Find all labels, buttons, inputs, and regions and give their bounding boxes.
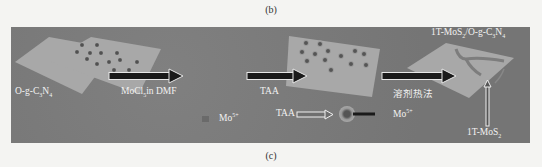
- caption-b: (b): [0, 4, 542, 15]
- legend-complex-mo: Mo5+: [393, 108, 413, 119]
- caption-c: (c): [0, 150, 542, 161]
- mo-ion-swatch: [202, 116, 209, 122]
- legend-mo-ion: Mo5+: [219, 112, 239, 123]
- synthesis-diagram: O-g-C3N4 MoCl5in DMF TAA 溶剂热法 1T-MoS2/O-…: [11, 27, 530, 143]
- diagram-graphics: [11, 27, 530, 143]
- sheet-3: [286, 36, 380, 97]
- label-o-g-c3n4: O-g-C3N4: [15, 86, 52, 98]
- process-arrows: [109, 69, 456, 83]
- legend-taa: TAA: [276, 108, 295, 118]
- label-solvothermal: 溶剂热法: [393, 86, 433, 100]
- product-pointer-arrow: [484, 80, 491, 126]
- taa-mo-complex-icon: [339, 106, 355, 122]
- label-product: 1T-MoS2/O-g-C3N4: [431, 27, 505, 39]
- label-1t-mos2: 1T-MoS2: [467, 127, 501, 139]
- label-taa: TAA: [260, 86, 279, 96]
- label-mocl5-in-dmf: MoCl5in DMF: [121, 86, 177, 98]
